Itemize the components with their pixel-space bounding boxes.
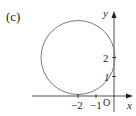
origin-label: O — [103, 97, 110, 108]
circle-diagram: (c) y x 2 1 −2 −1 O — [0, 0, 136, 116]
x-tick-label-minus2: −2 — [71, 99, 83, 111]
x-axis-arrow-icon — [126, 94, 133, 99]
y-tick-label-1: 1 — [104, 71, 110, 83]
y-axis-label: y — [102, 7, 108, 19]
panel-label: (c) — [6, 9, 20, 24]
y-axis-arrow-icon — [112, 11, 117, 18]
y-tick-label-2: 2 — [103, 52, 109, 64]
x-tick-label-minus1: −1 — [90, 99, 102, 111]
x-axis-label: x — [126, 99, 132, 111]
